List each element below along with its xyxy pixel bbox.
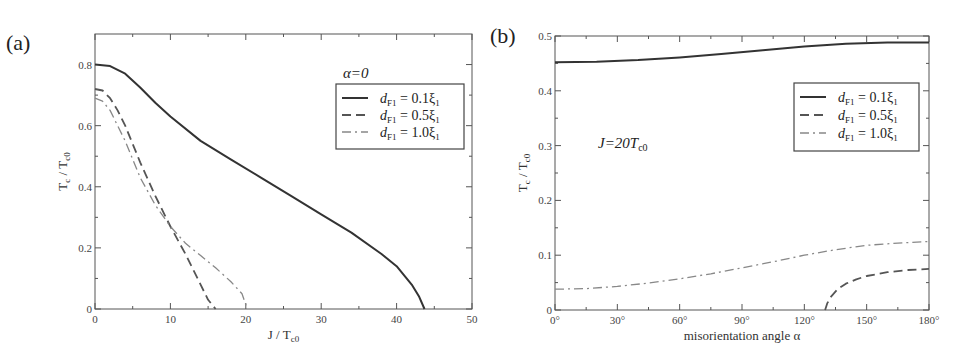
series-line-solid [555, 43, 929, 63]
figure: 0102030405000.20.40.60.8(a)J / Tc0Tc / T… [0, 0, 970, 359]
y-tick-label: 0.5 [538, 30, 552, 42]
series-line-dashdot [95, 98, 247, 309]
y-tick-label: 0.6 [78, 120, 92, 132]
x-tick-label: 180° [919, 314, 940, 326]
y-axis-label: Tc / Tc0 [515, 153, 532, 192]
chart-panel-a: 0102030405000.20.40.60.8(a)J / Tc0Tc / T… [6, 30, 478, 344]
series-line-dashed [825, 269, 929, 310]
plot-frame [95, 34, 472, 309]
x-tick-label: 0 [92, 313, 98, 325]
y-tick-label: 0 [87, 303, 93, 315]
panel-label: (b) [490, 23, 516, 48]
annotation: α=0 [343, 65, 369, 81]
y-tick-label: 0.4 [78, 181, 92, 193]
y-tick-label: 0.2 [78, 242, 92, 254]
x-axis-label: J / Tc0 [268, 327, 300, 344]
x-tick-label: 60° [672, 314, 687, 326]
y-tick-label: 0.1 [538, 249, 552, 261]
y-tick-label: 0 [547, 304, 553, 316]
x-tick-label: 30 [316, 313, 328, 325]
plot-frame [555, 36, 929, 310]
y-axis-label: Tc / Tc0 [55, 152, 72, 191]
y-tick-label: 0.2 [538, 194, 552, 206]
legend: dF1 = 0.1ξ1dF1 = 0.5ξ1dF1 = 1.0ξ1 [794, 83, 919, 151]
y-tick-label: 0.8 [78, 59, 92, 71]
series-line-dashdot [555, 242, 929, 290]
panel-label: (a) [6, 30, 30, 55]
chart-panel-b: 0°30°60°90°120°150°180°00.10.20.30.40.5(… [490, 23, 939, 343]
y-tick-label: 0.4 [538, 85, 552, 97]
series-line-dashed [95, 89, 216, 309]
x-tick-label: 150° [856, 314, 877, 326]
x-tick-label: 40 [391, 313, 403, 325]
x-axis-label: misorientation angle α [684, 328, 801, 343]
annotation: J=20Tc0 [598, 135, 648, 153]
x-tick-label: 30° [610, 314, 625, 326]
legend: dF1 = 0.1ξ1dF1 = 0.5ξ1dF1 = 1.0ξ1 [336, 84, 464, 149]
x-tick-label: 90° [734, 314, 749, 326]
x-tick-label: 50 [467, 313, 479, 325]
x-tick-label: 20 [240, 313, 252, 325]
x-tick-label: 10 [165, 313, 177, 325]
x-tick-label: 120° [794, 314, 815, 326]
y-tick-label: 0.3 [538, 140, 552, 152]
